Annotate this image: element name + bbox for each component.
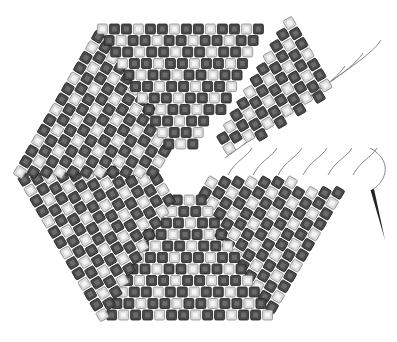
bead <box>220 70 230 80</box>
bead <box>208 299 218 309</box>
bead <box>237 59 247 69</box>
bead <box>175 116 185 126</box>
bead <box>223 241 233 251</box>
bead <box>145 24 155 34</box>
bead <box>84 287 98 301</box>
bead <box>117 59 127 69</box>
bead <box>200 36 210 46</box>
bead <box>237 287 247 297</box>
bead <box>167 82 177 92</box>
bead <box>187 116 197 126</box>
bead <box>147 276 157 286</box>
bead <box>156 230 166 240</box>
bead <box>184 70 194 80</box>
bead <box>193 128 203 138</box>
bead <box>227 82 237 92</box>
bead <box>219 276 229 286</box>
bead <box>173 93 183 103</box>
bead <box>197 218 207 228</box>
bead <box>289 27 303 41</box>
bead <box>229 24 239 34</box>
bead <box>293 103 307 117</box>
bead <box>184 195 194 205</box>
bead <box>224 36 234 46</box>
bead <box>188 36 198 46</box>
bead <box>48 225 62 239</box>
bead <box>165 59 175 69</box>
bead <box>181 253 191 263</box>
bead <box>231 276 241 286</box>
bead <box>124 299 134 309</box>
bead <box>179 310 189 320</box>
bead <box>148 70 158 80</box>
bead <box>301 47 315 61</box>
bead <box>283 16 297 30</box>
bead <box>169 24 179 34</box>
bead <box>153 287 163 297</box>
bead <box>161 218 171 228</box>
bead <box>169 128 179 138</box>
bead <box>195 47 205 57</box>
bead <box>217 253 227 263</box>
bead <box>180 105 190 115</box>
bead <box>205 253 215 263</box>
bead <box>141 59 151 69</box>
bead <box>177 59 187 69</box>
bead <box>176 139 186 149</box>
bead <box>163 116 173 126</box>
bead <box>295 37 309 51</box>
bead <box>97 24 107 34</box>
bead <box>152 36 162 46</box>
bead <box>199 241 209 251</box>
bead <box>163 241 173 251</box>
bead <box>193 24 203 34</box>
thread-segment <box>353 148 377 175</box>
bead <box>176 36 186 46</box>
bead <box>147 47 157 57</box>
bead <box>160 70 170 80</box>
bead <box>143 82 153 92</box>
bead <box>171 47 181 57</box>
bead <box>195 276 205 286</box>
bead <box>192 230 202 240</box>
bead <box>216 230 226 240</box>
bead <box>141 287 151 297</box>
bead <box>221 93 231 103</box>
bead <box>196 70 206 80</box>
bead <box>156 105 166 115</box>
bead <box>180 230 190 240</box>
bead <box>203 310 213 320</box>
bead <box>331 186 345 200</box>
bead <box>153 59 163 69</box>
bead <box>136 70 146 80</box>
bead <box>220 299 230 309</box>
bead <box>129 287 139 297</box>
bead <box>104 36 114 46</box>
bead <box>151 116 161 126</box>
bead <box>236 264 246 274</box>
bead <box>196 299 206 309</box>
bead <box>149 93 159 103</box>
bead <box>90 298 104 312</box>
bead <box>209 93 219 103</box>
bead <box>177 287 187 297</box>
bead <box>137 93 147 103</box>
bead <box>183 276 193 286</box>
bead <box>191 207 201 217</box>
bead <box>167 310 177 320</box>
bead <box>157 128 167 138</box>
bead <box>211 241 221 251</box>
bead <box>231 47 241 57</box>
bead <box>181 24 191 34</box>
bead <box>151 241 161 251</box>
bead <box>201 59 211 69</box>
bead <box>205 24 215 34</box>
beadwork-diagram <box>0 0 397 342</box>
bead <box>168 105 178 115</box>
bead <box>208 70 218 80</box>
bead <box>243 276 253 286</box>
bead <box>244 299 254 309</box>
bead <box>312 90 326 104</box>
thread-segment <box>278 148 302 175</box>
bead <box>179 82 189 92</box>
